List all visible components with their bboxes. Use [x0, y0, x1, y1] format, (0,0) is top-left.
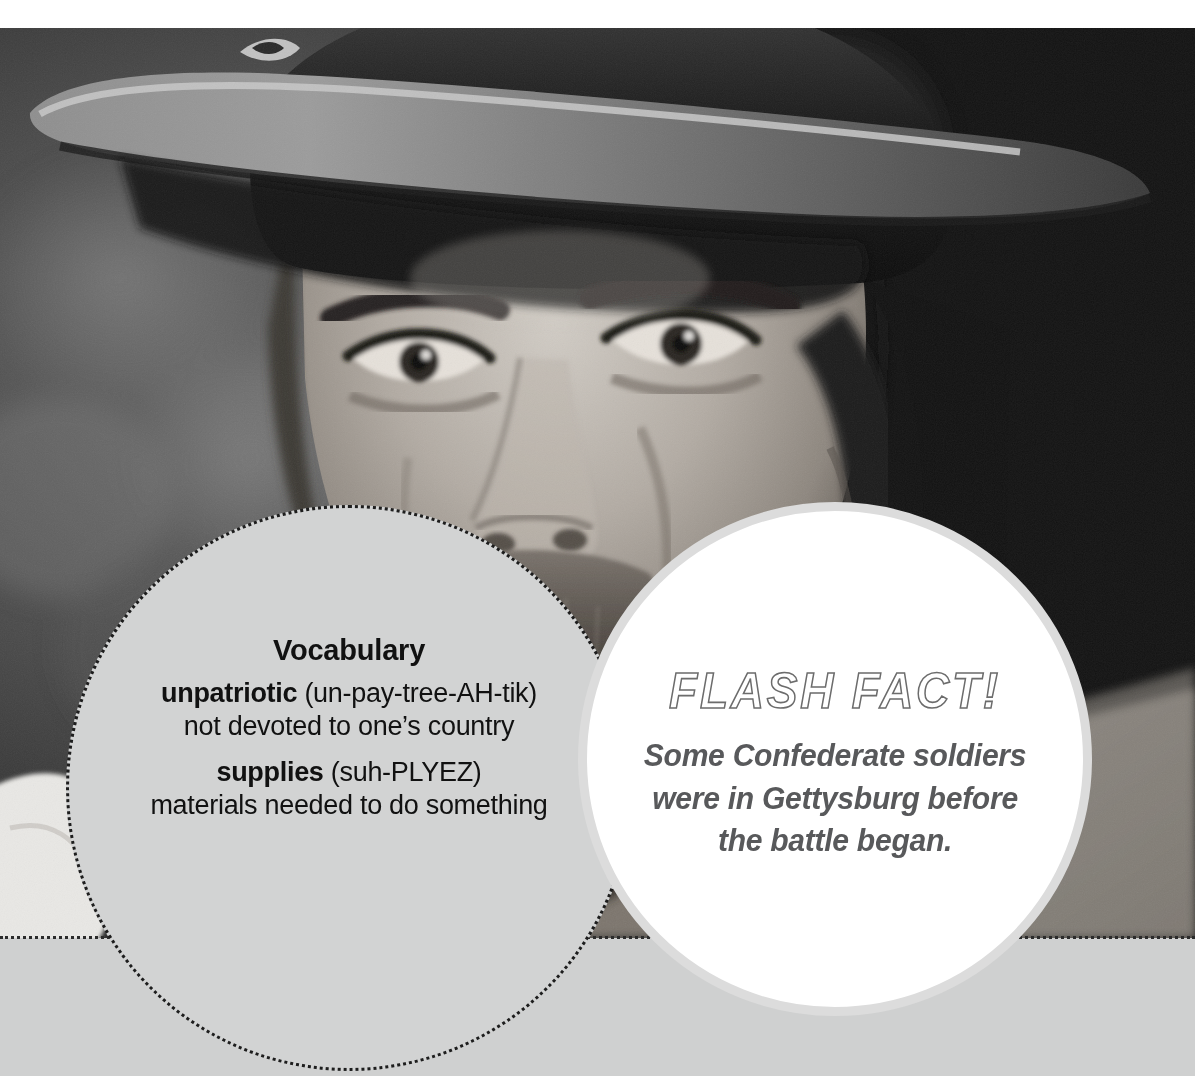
vocabulary-entry: supplies (suh-PLYEZ) materials needed to… — [114, 756, 584, 822]
vocabulary-term-line: unpatriotic (un-pay-tree-AH-tik) — [114, 677, 584, 710]
vocabulary-definition: not devoted to one’s country — [114, 710, 584, 743]
page-top-margin — [0, 0, 1195, 28]
vocabulary-pronunciation: (suh-PLYEZ) — [331, 757, 482, 787]
flash-fact-body-line: Some Confederate soldiers — [633, 734, 1037, 777]
flash-fact-heading: FLASH FACT! — [637, 662, 1033, 720]
flash-fact-body: Some Confederate soldiers were in Gettys… — [633, 734, 1037, 863]
flash-fact-body-line: the battle began. — [633, 819, 1037, 862]
page-canvas: Vocabulary unpatriotic (un-pay-tree-AH-t… — [0, 0, 1195, 1076]
vocabulary-definition: materials needed to do something — [114, 789, 584, 822]
flash-fact-content: FLASH FACT! Some Confederate soldiers we… — [620, 662, 1050, 863]
vocabulary-term: unpatriotic — [161, 678, 297, 708]
vocabulary-title: Vocabulary — [114, 633, 584, 668]
flash-fact-body-line: were in Gettysburg before — [633, 777, 1037, 820]
vocabulary-pronunciation: (un-pay-tree-AH-tik) — [304, 678, 537, 708]
vocabulary-content: Vocabulary unpatriotic (un-pay-tree-AH-t… — [114, 633, 584, 835]
vocabulary-term: supplies — [216, 757, 323, 787]
flash-fact-callout: FLASH FACT! Some Confederate soldiers we… — [578, 502, 1092, 1016]
vocabulary-term-line: supplies (suh-PLYEZ) — [114, 756, 584, 789]
vocabulary-callout: Vocabulary unpatriotic (un-pay-tree-AH-t… — [66, 505, 632, 1071]
vocabulary-entry: unpatriotic (un-pay-tree-AH-tik) not dev… — [114, 677, 584, 743]
